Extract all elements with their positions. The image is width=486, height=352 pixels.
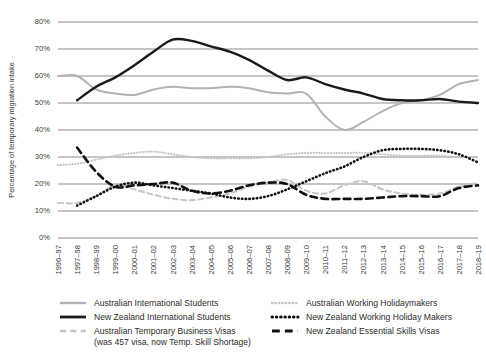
x-tick-label: 2013–14 (379, 245, 388, 275)
y-tick-label: 0% (39, 233, 50, 242)
x-tick-label: 2001–02 (149, 245, 158, 275)
y-tick-label: 60% (35, 71, 50, 80)
x-tick-label: 2012–13 (359, 245, 368, 275)
x-tick-label: 1996–97 (54, 245, 63, 275)
chart-container: Percentage of temporary migration intake… (0, 0, 486, 352)
x-tick-label: 1999–00 (111, 245, 120, 275)
x-tick-label: 2009–10 (302, 245, 311, 275)
y-axis-title: Percentage of temporary migration intake (7, 62, 16, 198)
x-tick-label: 2004–05 (207, 245, 216, 275)
y-tick-label: 30% (35, 152, 50, 161)
x-tick-label: 2005–06 (226, 245, 235, 275)
y-tick-label: 70% (35, 44, 50, 53)
x-tick-label: 2018–19 (474, 245, 483, 275)
chart-legend: Australian International StudentsNew Zea… (60, 298, 452, 347)
x-tick-label: 2015–16 (417, 245, 426, 275)
legend-label: Australian International Students (94, 298, 218, 308)
y-tick-label: 10% (35, 206, 50, 215)
legend-label: Australian Temporary Business Visas (94, 326, 236, 336)
x-tick-label: 2006–07 (245, 245, 254, 275)
x-tick-label: 2007–08 (264, 245, 273, 275)
y-tick-labels: 0%10%20%30%40%50%60%70%80% (35, 17, 50, 242)
x-tick-label: 2016–17 (436, 245, 445, 275)
x-tick-label: 2017–18 (455, 245, 464, 275)
x-tick-label: 2002–03 (169, 245, 178, 275)
legend-label: New Zealand Working Holiday Makers (306, 312, 452, 322)
y-tick-label: 20% (35, 179, 50, 188)
legend-label: New Zealand Essential Skills Visas (306, 326, 440, 336)
y-tick-label: 80% (35, 17, 50, 26)
x-tick-label: 1998–99 (92, 245, 101, 275)
x-tick-label: 2010–11 (321, 245, 330, 274)
x-tick-label: 2008–09 (283, 245, 292, 275)
legend-label-continued: (was 457 visa, now Temp. Skill Shortage) (94, 337, 251, 347)
x-tick-label: 2000–01 (130, 245, 139, 275)
legend-label: New Zealand International Students (94, 312, 231, 322)
x-tick-label: 2014–15 (398, 245, 407, 275)
gridlines (58, 22, 478, 238)
series-lines (58, 39, 478, 206)
x-tick-label: 2003–04 (188, 245, 197, 275)
y-tick-label: 50% (35, 98, 50, 107)
series-line (58, 75, 478, 130)
series-line (58, 152, 478, 166)
x-tick-labels: 1996–971997–981998–991999–002000–012001–… (54, 245, 483, 275)
legend-label: Australian Working Holidaymakers (306, 298, 437, 308)
x-tick-label: 2011–12 (340, 245, 349, 274)
y-axis-title-label: Percentage of temporary migration intake (7, 62, 16, 198)
x-tick-label: 1997–98 (73, 245, 82, 275)
line-chart-figure: Percentage of temporary migration intake… (0, 0, 486, 352)
y-tick-label: 40% (35, 125, 50, 134)
